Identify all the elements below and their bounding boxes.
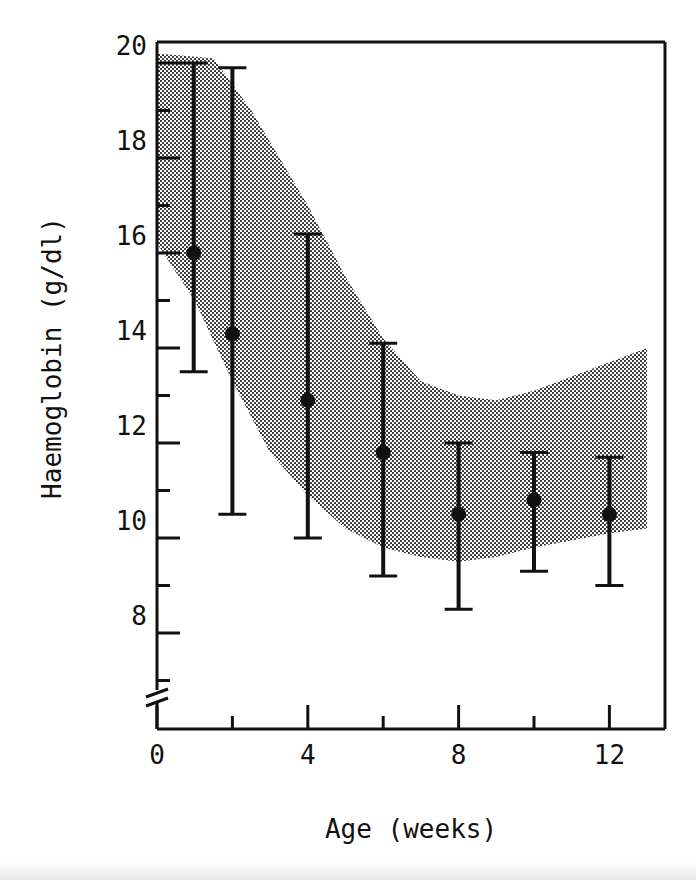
- haemoglobin-chart: 8101214161820 04812 Age (weeks) Haemoglo…: [0, 0, 696, 880]
- x-tick-label: 4: [300, 740, 316, 770]
- x-tick-label: 12: [594, 740, 625, 770]
- x-axis-title: Age (weeks): [325, 814, 497, 844]
- y-tick-label: 8: [131, 601, 147, 631]
- axis-break-icon: [146, 689, 168, 706]
- y-tick-label: 20: [116, 31, 147, 61]
- y-tick-label: 14: [116, 316, 147, 346]
- x-tick-label: 0: [149, 740, 165, 770]
- scan-edge: [0, 862, 696, 880]
- x-tick-label: 8: [451, 740, 467, 770]
- y-tick-label: 16: [116, 221, 147, 251]
- y-tick-label: 12: [116, 411, 147, 441]
- x-axis-ticks: 04812: [149, 705, 625, 770]
- y-tick-label: 18: [116, 126, 147, 156]
- y-tick-label: 10: [116, 506, 147, 536]
- y-axis-title: Haemoglobin (g/dl): [37, 217, 67, 499]
